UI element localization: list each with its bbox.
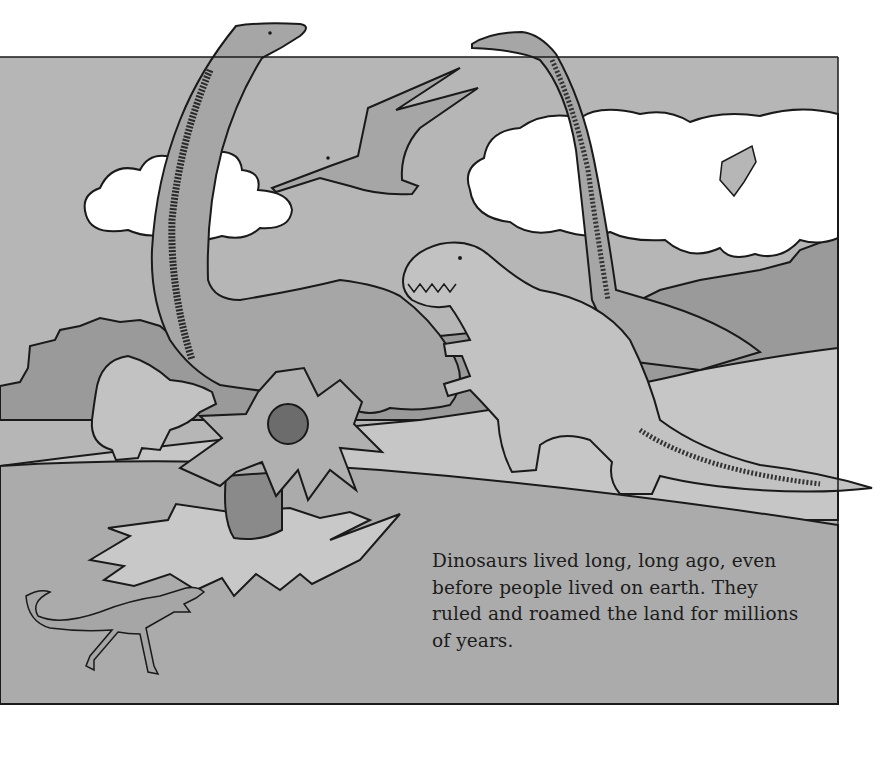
- caption-line: before people lived on earth. They: [432, 575, 832, 602]
- sauropod-left-eye: [268, 31, 272, 35]
- caption-line: of years.: [432, 628, 832, 655]
- caption-line: Dinosaurs lived long, long ago, even: [432, 548, 832, 575]
- story-caption: Dinosaurs lived long, long ago, even bef…: [432, 548, 832, 654]
- pterosaur-eye: [326, 156, 330, 160]
- tyrannosaurus-eye: [458, 256, 462, 260]
- plant-center: [268, 404, 308, 444]
- caption-line: ruled and roamed the land for millions: [432, 601, 832, 628]
